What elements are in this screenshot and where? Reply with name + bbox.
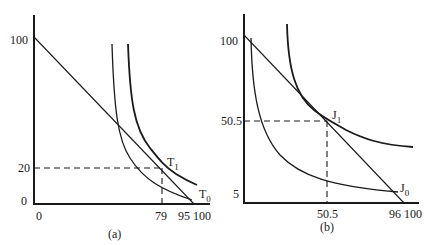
panel-b-x-tick-50-5: 50.5 [317, 207, 338, 221]
panel-b-indifference-curve-j0 [251, 38, 398, 192]
panel-a-y-tick-20: 20 [18, 161, 30, 175]
panel-a: 100 20 0 0 79 95 100 T1 T0 (a) [10, 15, 211, 241]
panel-b-budget-line [244, 35, 404, 203]
panel-a-x-tick-100: 100 [193, 209, 211, 223]
panel-b-x-tick-100: 100 [404, 207, 422, 221]
panel-b-x-tick-96: 96 [389, 207, 401, 221]
panel-a-x-tick-0: 0 [36, 209, 42, 223]
panel-b-y-tick-5: 5 [233, 187, 239, 201]
panel-b-caption: (b) [320, 220, 334, 234]
panel-b-indifference-curve-j1 [287, 24, 413, 147]
panel-b-y-tick-50-5: 50.5 [221, 114, 242, 128]
panel-a-y-tick-0: 0 [21, 194, 27, 208]
panel-b-y-tick-100: 100 [220, 34, 238, 48]
panel-b: 100 50.5 5 50.5 96 100 J1 J0 (b) [220, 14, 422, 234]
panel-a-indifference-curve-t1 [128, 44, 197, 185]
figure-canvas: 100 20 0 0 79 95 100 T1 T0 (a) 100 50.5 … [0, 0, 429, 245]
panel-a-point-label-t0: T0 [199, 187, 211, 204]
panel-b-point-label-j0: J0 [400, 181, 410, 198]
panel-a-budget-line [34, 37, 194, 204]
panel-a-x-tick-95: 95 [178, 209, 190, 223]
panel-a-x-tick-79: 79 [155, 209, 167, 223]
panel-a-y-tick-100: 100 [10, 33, 28, 47]
panel-a-caption: (a) [108, 227, 121, 241]
